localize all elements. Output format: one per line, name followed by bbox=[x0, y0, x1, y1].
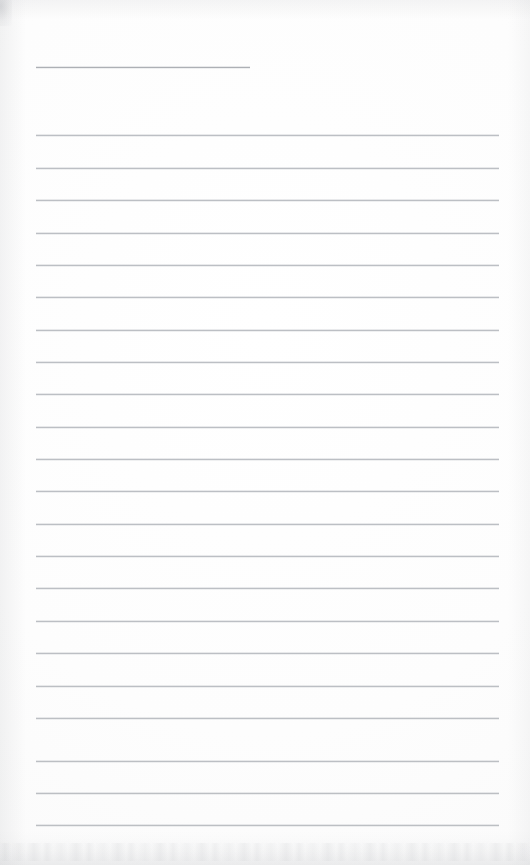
ruled-line bbox=[36, 297, 499, 298]
scanned-page bbox=[0, 0, 530, 865]
ruled-line bbox=[36, 200, 499, 201]
ruled-line bbox=[36, 67, 250, 68]
ruled-line bbox=[36, 556, 499, 557]
ruled-lines-layer bbox=[0, 0, 530, 865]
ruled-line bbox=[36, 686, 499, 687]
ruled-line bbox=[36, 135, 499, 136]
ruled-line bbox=[36, 793, 499, 794]
ruled-line bbox=[36, 394, 499, 395]
ruled-line bbox=[36, 362, 499, 363]
ruled-line bbox=[36, 233, 499, 234]
ruled-line bbox=[36, 265, 499, 266]
ruled-line bbox=[36, 653, 499, 654]
ruled-line bbox=[36, 524, 499, 525]
ruled-line bbox=[36, 491, 499, 492]
ruled-line bbox=[36, 427, 499, 428]
ruled-line bbox=[36, 168, 499, 169]
ruled-line bbox=[36, 825, 499, 826]
ruled-line bbox=[36, 330, 499, 331]
ruled-line bbox=[36, 459, 499, 460]
ruled-line bbox=[36, 621, 499, 622]
ruled-line bbox=[36, 588, 499, 589]
ruled-line bbox=[36, 761, 499, 762]
ruled-line bbox=[36, 718, 499, 719]
